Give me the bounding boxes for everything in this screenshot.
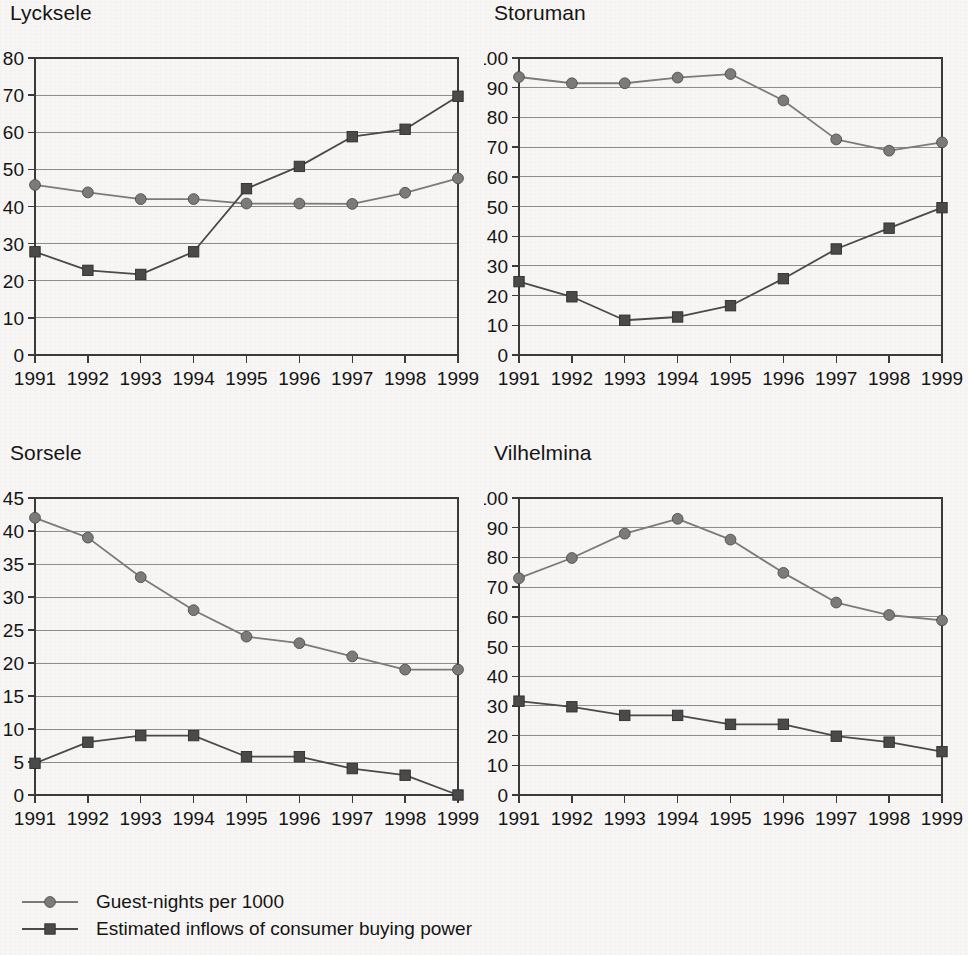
chart-title: Sorsele — [10, 441, 82, 465]
x-axis-tick-label: 1994 — [172, 808, 215, 829]
y-axis-tick-label: 10 — [487, 315, 508, 336]
data-point-circle — [831, 597, 842, 608]
data-point-square — [514, 696, 524, 706]
y-axis-tick-label: 30 — [3, 234, 24, 255]
plot-svg: 0102030405060708090100199119921993199419… — [484, 42, 968, 392]
plot-svg: 0102030405060708090100199119921993199419… — [484, 482, 968, 832]
data-point-square — [30, 758, 40, 768]
plot-svg: 0102030405060708019911992199319941995199… — [0, 42, 484, 392]
y-axis-tick-label: 70 — [3, 85, 24, 106]
data-point-square — [831, 244, 841, 254]
x-axis-tick-label: 1994 — [656, 808, 699, 829]
data-point-circle — [514, 573, 525, 584]
y-axis-tick-label: 90 — [487, 518, 508, 539]
x-axis-tick-label: 1995 — [709, 368, 751, 389]
data-point-square — [400, 124, 410, 134]
data-point-circle — [82, 187, 93, 198]
y-axis-tick-label: 50 — [3, 159, 24, 180]
data-point-circle — [725, 69, 736, 80]
data-point-circle — [937, 137, 948, 148]
y-axis-tick-label: 40 — [487, 666, 508, 687]
x-axis-tick-label: 1996 — [762, 808, 804, 829]
y-axis-tick-label: 80 — [3, 48, 24, 69]
data-point-square — [778, 273, 788, 283]
data-point-square — [453, 790, 463, 800]
data-point-circle — [884, 145, 895, 156]
legend-circle-marker-icon — [18, 891, 82, 913]
y-axis-tick-label: 60 — [487, 167, 508, 188]
chart-panel-storuman: Storuman01020304050607080901001991199219… — [484, 0, 968, 440]
y-axis-tick-label: 50 — [487, 197, 508, 218]
y-axis-tick-label: 100 — [484, 48, 508, 69]
data-point-circle — [30, 512, 41, 523]
chart-panel-vilhelmina: Vilhelmina010203040506070809010019911992… — [484, 440, 968, 880]
y-axis-tick-label: 70 — [487, 137, 508, 158]
x-axis-tick-label: 1996 — [762, 368, 804, 389]
y-axis-tick-label: 25 — [3, 620, 24, 641]
data-point-square — [514, 276, 524, 286]
plot-area: 0102030405060708090100199119921993199419… — [484, 482, 968, 832]
data-point-square — [937, 202, 947, 212]
data-point-square — [884, 737, 894, 747]
data-point-square — [83, 265, 93, 275]
x-axis-tick-label: 1995 — [709, 808, 751, 829]
data-point-square — [188, 247, 198, 257]
data-point-circle — [619, 528, 630, 539]
data-point-circle — [400, 187, 411, 198]
y-axis-tick-label: 100 — [484, 488, 508, 509]
data-point-square — [778, 719, 788, 729]
y-axis-tick-label: 30 — [3, 587, 24, 608]
series-line-guest-nights — [35, 518, 458, 670]
x-axis-tick-label: 1999 — [921, 808, 963, 829]
plot-area: 0510152025303540451991199219931994199519… — [0, 482, 484, 832]
y-axis-tick-label: 20 — [3, 271, 24, 292]
data-point-square — [831, 731, 841, 741]
data-point-circle — [778, 567, 789, 578]
data-point-circle — [725, 534, 736, 545]
x-axis-tick-label: 1999 — [437, 808, 479, 829]
x-axis-tick-label: 1997 — [815, 368, 857, 389]
x-axis-tick-label: 1997 — [815, 808, 857, 829]
data-point-square — [725, 719, 735, 729]
y-axis-tick-label: 10 — [3, 719, 24, 740]
data-point-square — [567, 702, 577, 712]
legend-label-buying-power: Estimated inflows of consumer buying pow… — [96, 918, 472, 940]
y-axis-tick-label: 90 — [487, 78, 508, 99]
data-point-square — [725, 300, 735, 310]
data-point-square — [884, 223, 894, 233]
chart-panel-lycksele: Lycksele01020304050607080199119921993199… — [0, 0, 484, 440]
data-point-square — [620, 315, 630, 325]
y-axis-tick-label: 40 — [3, 521, 24, 542]
chart-panel-sorsele: Sorsele051015202530354045199119921993199… — [0, 440, 484, 880]
x-axis-tick-label: 1995 — [225, 368, 267, 389]
data-point-square — [347, 132, 357, 142]
y-axis-tick-label: 20 — [487, 286, 508, 307]
x-axis-tick-label: 1994 — [172, 368, 215, 389]
data-point-square — [294, 752, 304, 762]
x-axis-tick-label: 1997 — [331, 808, 373, 829]
legend-square-marker-icon — [18, 918, 82, 940]
data-point-square — [241, 752, 251, 762]
y-axis-tick-label: 0 — [497, 785, 508, 806]
y-axis-tick-label: 40 — [3, 197, 24, 218]
data-point-circle — [672, 72, 683, 83]
y-axis-tick-label: 80 — [487, 107, 508, 128]
x-axis-tick-label: 1993 — [604, 368, 646, 389]
data-point-square — [30, 247, 40, 257]
data-point-square — [567, 292, 577, 302]
data-point-square — [672, 312, 682, 322]
data-point-circle — [937, 615, 948, 626]
data-point-square — [937, 746, 947, 756]
x-axis-tick-label: 1999 — [437, 368, 479, 389]
x-axis-tick-label: 1993 — [604, 808, 646, 829]
x-axis-tick-label: 1998 — [384, 368, 426, 389]
data-point-circle — [514, 72, 525, 83]
y-axis-tick-label: 40 — [487, 226, 508, 247]
x-axis-tick-label: 1995 — [225, 808, 267, 829]
x-axis-tick-label: 1999 — [921, 368, 963, 389]
plot-area: 0102030405060708019911992199319941995199… — [0, 42, 484, 392]
x-axis-tick-label: 1994 — [656, 368, 699, 389]
x-axis-tick-label: 1991 — [14, 808, 56, 829]
y-axis-tick-label: 70 — [487, 577, 508, 598]
data-point-circle — [619, 78, 630, 89]
